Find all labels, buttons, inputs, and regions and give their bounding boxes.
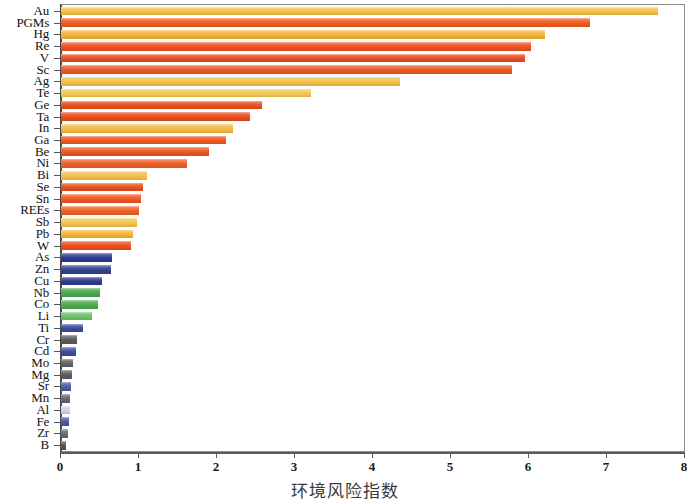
- y-axis-tick: [54, 375, 60, 376]
- bar-row: [61, 216, 685, 228]
- y-axis-tick: [54, 351, 60, 352]
- bar-row: [61, 392, 685, 404]
- x-axis-tick: [216, 452, 217, 458]
- bar-re: [61, 42, 531, 51]
- x-axis-tick: [138, 452, 139, 458]
- bar-cd: [61, 347, 76, 356]
- bar-row: [61, 134, 685, 146]
- bar-row: [61, 158, 685, 170]
- bar-ag: [61, 77, 400, 86]
- bar-be: [61, 147, 209, 156]
- bar-row: [61, 263, 685, 275]
- bar-zn: [61, 265, 111, 274]
- x-axis-tick: [684, 452, 685, 458]
- bar-row: [61, 5, 685, 17]
- bar-row: [61, 122, 685, 134]
- bar-ge: [61, 101, 262, 110]
- x-axis-tick-label-7: 7: [603, 459, 610, 475]
- bar-sr: [61, 382, 71, 391]
- y-axis-tick: [54, 152, 60, 153]
- bar-row: [61, 357, 685, 369]
- bar-mn: [61, 394, 70, 403]
- y-axis-tick: [54, 187, 60, 188]
- bar-row: [61, 287, 685, 299]
- bar-sn: [61, 194, 141, 203]
- x-axis-tick-label-5: 5: [447, 459, 454, 475]
- y-axis-tick: [54, 163, 60, 164]
- x-axis-tick-label-3: 3: [291, 459, 298, 475]
- y-axis-labels: AuPGMsHgReVScAgTeGeTaInGaBeNiBiSeSnREEsS…: [0, 5, 58, 451]
- bar-row: [61, 369, 685, 381]
- bar-ni: [61, 159, 187, 168]
- bar-cr: [61, 335, 77, 344]
- y-axis-tick: [54, 234, 60, 235]
- y-axis-tick: [54, 222, 60, 223]
- bar-row: [61, 28, 685, 40]
- x-axis-tick-label-1: 1: [135, 459, 142, 475]
- y-axis-tick: [54, 422, 60, 423]
- y-axis-tick: [54, 433, 60, 434]
- bar-row: [61, 146, 685, 158]
- y-axis-tick: [54, 34, 60, 35]
- bar-row: [61, 52, 685, 64]
- bar-sc: [61, 65, 512, 74]
- bar-fe: [61, 417, 69, 426]
- bar-v: [61, 54, 525, 63]
- bar-se: [61, 183, 143, 192]
- y-axis-tick: [54, 386, 60, 387]
- bar-row: [61, 169, 685, 181]
- x-axis-tick: [294, 452, 295, 458]
- y-axis-tick: [54, 23, 60, 24]
- bar-ta: [61, 112, 250, 121]
- bars-layer: [61, 5, 685, 451]
- bar-row: [61, 310, 685, 322]
- y-axis-tick: [54, 328, 60, 329]
- bar-chart: AuPGMsHgReVScAgTeGeTaInGaBeNiBiSeSnREEsS…: [0, 0, 690, 504]
- bar-ga: [61, 136, 226, 145]
- x-axis-tick-label-2: 2: [213, 459, 220, 475]
- bar-pb: [61, 230, 133, 239]
- x-axis-tick-label-6: 6: [525, 459, 532, 475]
- bar-row: [61, 205, 685, 217]
- bar-row: [61, 111, 685, 123]
- y-axis-tick: [54, 128, 60, 129]
- bar-row: [61, 193, 685, 205]
- x-axis-tick: [528, 452, 529, 458]
- y-axis-tick: [54, 70, 60, 71]
- bar-row: [61, 228, 685, 240]
- bar-li: [61, 312, 92, 321]
- x-axis-tick: [450, 452, 451, 458]
- y-axis-tick: [54, 105, 60, 106]
- bar-row: [61, 87, 685, 99]
- bar-bi: [61, 171, 147, 180]
- bar-sb: [61, 218, 137, 227]
- x-axis-tick: [60, 452, 61, 458]
- bar-row: [61, 64, 685, 76]
- bar-row: [61, 40, 685, 52]
- y-axis-tick: [54, 410, 60, 411]
- bar-row: [61, 17, 685, 29]
- bar-mo: [61, 359, 73, 368]
- y-axis-label-b: B: [41, 439, 49, 450]
- y-axis-tick: [54, 445, 60, 446]
- bar-zr: [61, 429, 68, 438]
- y-axis-tick: [54, 293, 60, 294]
- x-axis-tick-label-8: 8: [681, 459, 688, 475]
- bar-row: [61, 334, 685, 346]
- bar-b: [61, 441, 66, 450]
- bar-rees: [61, 206, 139, 215]
- y-axis-tick: [54, 199, 60, 200]
- bar-mg: [61, 370, 72, 379]
- x-axis-tick: [606, 452, 607, 458]
- bar-row: [61, 75, 685, 87]
- y-axis-tick: [54, 398, 60, 399]
- bar-row: [61, 439, 685, 451]
- bar-row: [61, 240, 685, 252]
- y-axis-tick: [54, 210, 60, 211]
- bar-cu: [61, 277, 102, 286]
- y-axis-tick: [54, 140, 60, 141]
- bar-row: [61, 404, 685, 416]
- y-axis-tick: [54, 304, 60, 305]
- bar-ti: [61, 324, 83, 333]
- y-axis-tick: [54, 316, 60, 317]
